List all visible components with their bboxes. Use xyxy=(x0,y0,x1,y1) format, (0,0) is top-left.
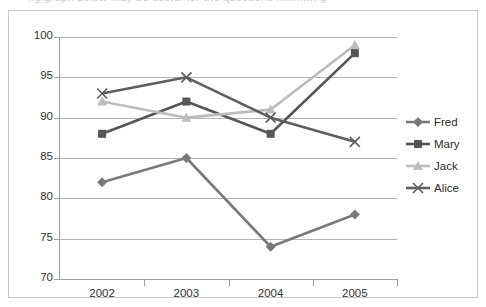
legend-label: Mary xyxy=(434,138,460,150)
legend-label: Fred xyxy=(434,116,458,128)
y-tick-mark xyxy=(54,37,60,38)
triangle-marker xyxy=(350,40,360,49)
cropped-text-strip: ng graph below may be useful for the que… xyxy=(0,0,486,9)
series-line-fred xyxy=(102,158,355,247)
legend-item-alice[interactable]: Alice xyxy=(405,177,479,199)
diamond-marker xyxy=(350,209,360,219)
square-marker xyxy=(182,98,190,106)
legend-label: Alice xyxy=(434,182,459,194)
legend-key-triangle-icon xyxy=(405,159,431,173)
square-marker xyxy=(351,49,359,57)
y-tick-mark xyxy=(54,239,60,240)
y-tick-mark xyxy=(54,77,60,78)
series-markers-alice xyxy=(97,72,360,147)
legend-key-square-icon xyxy=(405,137,431,151)
legend-key-cross-icon xyxy=(405,181,431,195)
chart-legend: FredMaryJackAlice xyxy=(405,111,479,199)
y-tick-mark xyxy=(54,279,60,280)
square-marker xyxy=(414,140,422,148)
legend-label: Jack xyxy=(434,160,458,172)
cropped-text: ng graph below may be useful for the que… xyxy=(28,0,326,3)
legend-item-fred[interactable]: Fred xyxy=(405,111,479,133)
square-marker xyxy=(267,130,275,138)
legend-key-diamond-icon xyxy=(405,115,431,129)
y-tick-mark xyxy=(54,198,60,199)
series-line-jack xyxy=(102,45,355,118)
y-tick-mark xyxy=(54,118,60,119)
legend-item-jack[interactable]: Jack xyxy=(405,155,479,177)
chart-frame: 707580859095100 2002200320042005 FredMar… xyxy=(8,10,478,298)
y-tick-mark xyxy=(54,158,60,159)
series-markers-mary xyxy=(98,49,359,138)
diamond-marker xyxy=(97,177,107,187)
series-line-mary xyxy=(102,53,355,134)
square-marker xyxy=(98,130,106,138)
legend-item-mary[interactable]: Mary xyxy=(405,133,479,155)
diamond-marker xyxy=(413,117,423,127)
